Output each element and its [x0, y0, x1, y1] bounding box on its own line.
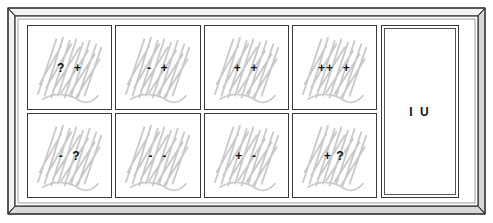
grid-cell[interactable]: - - — [115, 113, 200, 198]
grid-cell-label: + ? — [293, 114, 376, 197]
grid-cell[interactable]: + - — [204, 113, 289, 198]
grid-cell-label: - - — [116, 114, 199, 197]
right-panel[interactable]: I U — [381, 25, 459, 198]
grid-cell-label: - ? — [28, 114, 111, 197]
grid-cell[interactable]: - + — [115, 25, 200, 110]
grid-cell-label: + - — [205, 114, 288, 197]
grid-cell[interactable]: - ? — [27, 113, 112, 198]
grid-cell-label: ++ + — [293, 26, 376, 109]
grid-cell-label: ? + — [28, 26, 111, 109]
grid-cell[interactable]: ++ + — [292, 25, 377, 110]
diagram-case: ? + - + + + — [0, 0, 493, 223]
grid-cell[interactable]: + + — [204, 25, 289, 110]
grid-cell-label: + + — [205, 26, 288, 109]
grid-cell-label: - + — [116, 26, 199, 109]
right-panel-label: I U — [385, 29, 455, 194]
grid-cell[interactable]: ? + — [27, 25, 112, 110]
grid-cell[interactable]: + ? — [292, 113, 377, 198]
sign-grid: ? + - + + + — [27, 25, 377, 198]
right-panel-inner: I U — [384, 28, 456, 195]
